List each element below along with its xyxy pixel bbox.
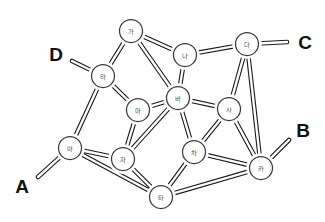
graph-node-ka[interactable]: 카 — [248, 155, 274, 181]
node-label-cha: 차 — [191, 149, 197, 157]
edge-sa-cha — [201, 118, 222, 144]
edge-ga-na — [141, 35, 175, 50]
edge-ga-ra — [109, 40, 125, 66]
node-label-ga: 가 — [128, 28, 134, 36]
graph-node-ja[interactable]: 자 — [110, 146, 136, 172]
graph-canvas: 가나다라마바사아자차카타 ABCD — [0, 0, 325, 222]
graph-node-ta[interactable]: 타 — [148, 184, 174, 210]
edge-sa-ka — [234, 119, 256, 159]
graph-node-da[interactable]: 다 — [234, 31, 260, 57]
graph-node-cha[interactable]: 차 — [181, 139, 207, 165]
terminal-edge-A — [38, 155, 62, 177]
terminal-label-B: B — [296, 120, 310, 141]
graph-node-ba[interactable]: 바 — [165, 85, 191, 111]
terminal-edge-C — [258, 42, 287, 43]
graph-node-sa[interactable]: 사 — [216, 96, 242, 122]
edge-ra-ma — [111, 84, 130, 103]
graph-node-ma[interactable]: 마 — [125, 97, 151, 123]
node-label-ba: 바 — [175, 95, 181, 103]
network-diagram: 가나다라마바사아자차카타 ABCD — [0, 0, 325, 222]
node-label-ja: 자 — [120, 156, 126, 164]
node-label-sa: 사 — [226, 106, 232, 114]
node-label-a: 아 — [67, 145, 73, 153]
edge-ta-ka — [172, 171, 251, 194]
edge-na-da — [196, 46, 236, 53]
graph-node-na[interactable]: 나 — [172, 42, 198, 68]
node-label-na: 나 — [182, 52, 188, 60]
node-label-da: 다 — [244, 41, 250, 49]
terminal-label-C: C — [298, 32, 312, 53]
node-label-ka: 카 — [258, 165, 264, 173]
edge-da-sa — [232, 55, 244, 99]
graph-node-ga[interactable]: 가 — [118, 18, 144, 44]
terminal-edge-B — [269, 140, 289, 160]
edge-da-ka — [248, 55, 260, 157]
edge-ba-cha — [181, 109, 191, 142]
node-label-ta: 타 — [158, 194, 164, 202]
node-label-ra: 라 — [100, 73, 106, 81]
node-label-ma: 마 — [135, 107, 141, 115]
terminal-label-A: A — [15, 176, 29, 197]
terminal-label-D: D — [49, 44, 63, 65]
edge-ra-a — [75, 86, 99, 138]
graph-node-ra[interactable]: 라 — [90, 63, 116, 89]
edge-cha-ta — [168, 161, 188, 188]
graph-node-a[interactable]: 아 — [57, 135, 83, 161]
edge-cha-ka — [205, 155, 251, 166]
